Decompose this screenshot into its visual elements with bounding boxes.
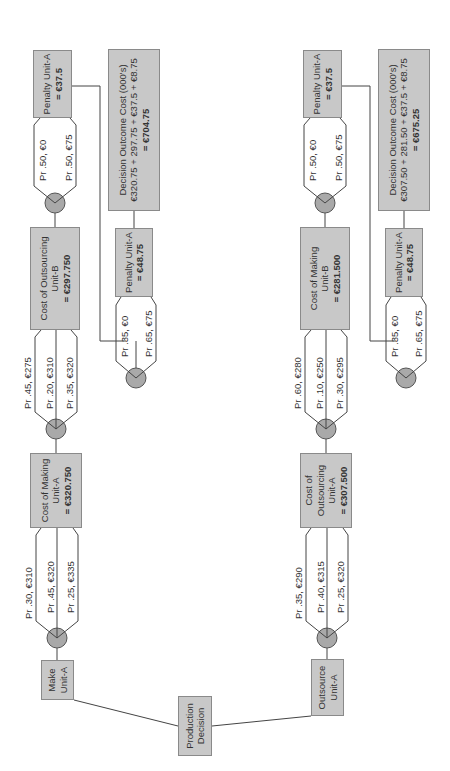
outcome-title: Decision Outcome Cost (000's) [387, 64, 399, 195]
penalty-box: Penalty Unit-A = €37.5 [303, 50, 342, 118]
penalty-box: Penalty Unit-A = €48.75 [385, 228, 423, 297]
outcome-label: Pr .45, €275 [23, 357, 33, 409]
outcome-label: Pr .60, €280 [293, 357, 303, 409]
node-label: Production [184, 703, 196, 748]
box-label: Cost of Outsourcing [38, 237, 50, 321]
box-value: = €48.75 [404, 244, 416, 281]
outcome-label: Pr .65, €75 [414, 311, 424, 357]
outcome-label: Pr .35, €290 [294, 567, 304, 619]
outcome-formula: €307.50 + 281.50 + €37.5 + €8.75 [398, 58, 410, 201]
box-label: Unit-A [50, 477, 62, 503]
outcome-label: Pr .35, €320 [65, 357, 75, 409]
box-label: Unit-A [326, 477, 338, 503]
outcome-label: Pr .20, €310 [45, 357, 55, 409]
cost-box: Cost of Making Unit-B = €281.500 [300, 227, 350, 330]
outcome-label: Pr .25, €320 [336, 561, 346, 613]
box-label: Unit-B [49, 265, 61, 291]
box-label: Cost of [303, 475, 315, 505]
penalty-box: Penalty Unit-A = €37.5 [33, 50, 72, 118]
node-label: Make [46, 668, 58, 691]
node-label: Unit-A [328, 674, 340, 700]
box-label: Penalty Unit-A [123, 232, 135, 293]
box-label: Penalty Unit-A [41, 54, 53, 115]
outcome-label: Pr .50, €0 [308, 140, 318, 181]
node-label: Outsource [316, 666, 328, 710]
box-label: Outsourcing [315, 465, 327, 516]
decision-outcome-box: Decision Outcome Cost (000's) €320.75 + … [108, 49, 160, 211]
node-label: Unit-A [58, 667, 70, 693]
outcome-label: Pr .25, €335 [66, 561, 76, 613]
outcome-total: = €675.25 [410, 109, 422, 152]
production-decision-node: Production Decision [178, 696, 212, 756]
penalty-box: Penalty Unit-A = €48.75 [115, 228, 153, 297]
outcome-label: Pr .35, €0 [390, 316, 400, 357]
outcome-label: Pr .30, €310 [24, 567, 34, 619]
outsource-unit-a-node: Outsource Unit-A [311, 659, 344, 716]
decision-tree-canvas: Production Decision Make Unit-A Pr .30, … [0, 0, 450, 771]
cost-box: Cost of Making Unit-A = €320.750 [30, 453, 82, 528]
box-value: = €48.75 [134, 244, 146, 281]
decision-outcome-box: Decision Outcome Cost (000's) €307.50 + … [378, 49, 430, 211]
box-label: Unit-B [319, 265, 331, 291]
box-value: = €320.750 [62, 467, 74, 515]
make-unit-a-node: Make Unit-A [41, 660, 74, 700]
outcome-label: Pr .50, €75 [334, 135, 344, 181]
box-value: = €297.750 [61, 255, 73, 303]
outcome-label: Pr .30, €295 [335, 357, 345, 409]
cost-box: Cost of Outsourcing Unit-A = €307.500 [300, 453, 352, 528]
outcome-label: Pr .10, €250 [315, 357, 325, 409]
cost-box: Cost of Outsourcing Unit-B = €297.750 [30, 227, 80, 330]
outcome-label: Pr .45, €320 [46, 561, 56, 613]
box-value: = €281.500 [331, 255, 343, 303]
outcome-title: Decision Outcome Cost (000's) [117, 64, 129, 195]
outcome-total: = €704.75 [140, 109, 152, 152]
outcome-label: Pr .50, €0 [38, 140, 48, 181]
box-label: Penalty Unit-A [393, 232, 405, 293]
outcome-label: Pr .40, €315 [316, 561, 326, 613]
outcome-label: Pr .35, €0 [120, 316, 130, 357]
edge-root-outsource [212, 716, 311, 726]
edge-root-make [74, 700, 178, 726]
node-label: Decision [195, 708, 207, 744]
box-label: Cost of Making [39, 459, 51, 522]
box-value: = €37.5 [53, 68, 65, 100]
box-value: = €307.500 [338, 467, 350, 515]
box-value: = €37.5 [323, 68, 335, 100]
outcome-label: Pr .65, €75 [144, 311, 154, 357]
box-label: Penalty Unit-A [311, 54, 323, 115]
outcome-label: Pr .50, €75 [64, 135, 74, 181]
outcome-formula: €320.75 + 297.75 + €37.5 + €8.75 [128, 58, 140, 201]
box-label: Cost of Making [308, 247, 320, 310]
